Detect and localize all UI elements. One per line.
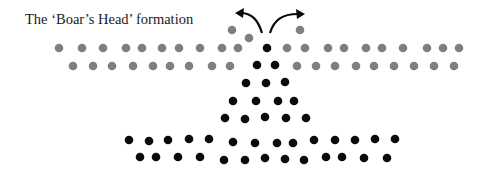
right-arrow-shaft	[270, 14, 298, 33]
grey-dot	[331, 62, 340, 71]
grey-dot	[175, 44, 184, 53]
grey-dot	[166, 62, 175, 71]
grey-dot	[301, 44, 310, 53]
grey-dot	[439, 44, 448, 53]
black-dot	[310, 136, 319, 145]
grey-dot	[370, 62, 379, 71]
grey-dot	[455, 44, 464, 53]
grey-dot	[158, 44, 167, 53]
black-dot	[185, 135, 194, 144]
black-dot	[290, 97, 299, 106]
grey-dot	[352, 62, 361, 71]
grey-dot	[296, 26, 305, 35]
black-dot	[282, 114, 291, 123]
grey-dot	[378, 44, 387, 53]
black-dot	[125, 136, 134, 145]
black-dot	[229, 138, 238, 147]
black-dot	[145, 137, 154, 146]
black-dot	[338, 153, 347, 162]
grey-dot	[390, 62, 399, 71]
black-dots-group	[125, 44, 400, 165]
formation-diagram	[0, 0, 485, 172]
grey-dot	[78, 44, 87, 53]
black-dot	[281, 155, 290, 164]
grey-dot	[362, 44, 371, 53]
left-arrow-head-icon	[235, 8, 244, 18]
grey-dot	[108, 62, 117, 71]
black-dot	[164, 136, 173, 145]
grey-dot	[410, 62, 419, 71]
grey-dot	[185, 62, 194, 71]
black-dot	[251, 139, 260, 148]
grey-dot	[89, 62, 98, 71]
right-arrow-head-icon	[296, 9, 305, 19]
grey-dot	[312, 62, 321, 71]
black-dot	[253, 61, 262, 70]
black-dot	[289, 139, 298, 148]
grey-dot	[283, 44, 292, 53]
black-dot	[271, 61, 280, 70]
black-dot	[302, 114, 311, 123]
black-dot	[205, 135, 214, 144]
grey-dot	[340, 44, 349, 53]
black-dot	[263, 44, 272, 53]
black-dot	[241, 156, 250, 165]
black-dot	[281, 78, 290, 87]
grey-dot	[55, 44, 64, 53]
grey-dot	[399, 44, 408, 53]
grey-dot	[228, 26, 237, 35]
grey-dot	[129, 62, 138, 71]
grey-dot	[423, 44, 432, 53]
grey-dot	[430, 62, 439, 71]
black-dot	[391, 135, 400, 144]
black-dot	[300, 156, 309, 165]
black-dot	[322, 153, 331, 162]
black-dot	[229, 97, 238, 106]
grey-dot	[226, 62, 235, 71]
black-dot	[273, 139, 282, 148]
grey-dot	[196, 44, 205, 53]
grey-dot	[69, 62, 78, 71]
black-dot	[331, 136, 340, 145]
grey-dot	[208, 62, 217, 71]
black-dot	[383, 154, 392, 163]
black-dot	[252, 97, 261, 106]
black-dot	[221, 114, 230, 123]
black-dot	[241, 115, 250, 124]
black-dot	[360, 154, 369, 163]
black-dot	[174, 153, 183, 162]
left-arrow-shaft	[240, 13, 262, 33]
grey-dot	[149, 62, 158, 71]
arrows-group	[235, 8, 305, 33]
black-dot	[262, 79, 271, 88]
black-dot	[220, 156, 229, 165]
black-dot	[261, 154, 270, 163]
grey-dot	[218, 44, 227, 53]
grey-dot	[245, 34, 254, 43]
black-dot	[274, 97, 283, 106]
grey-dot	[293, 62, 302, 71]
black-dot	[261, 113, 270, 122]
black-dot	[152, 153, 161, 162]
grey-dot	[450, 62, 459, 71]
grey-dot	[324, 44, 333, 53]
grey-dot	[234, 44, 243, 53]
grey-dot	[122, 44, 131, 53]
black-dot	[196, 153, 205, 162]
black-dot	[371, 135, 380, 144]
grey-dot	[138, 44, 147, 53]
black-dot	[242, 79, 251, 88]
black-dot	[351, 136, 360, 145]
black-dot	[136, 153, 145, 162]
grey-dot	[99, 44, 108, 53]
